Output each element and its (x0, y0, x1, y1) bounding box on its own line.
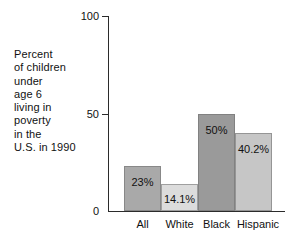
bar-value-white: 14.1% (162, 194, 197, 205)
poverty-bar-chart-figure: Percent of children under age 6 living i… (0, 0, 305, 249)
bar-slot-hispanic: 40.2% (235, 16, 272, 211)
chart-caption: Percent of children under age 6 living i… (14, 48, 102, 154)
bar-value-all: 23% (125, 177, 160, 188)
plot-area: 100 50 0 23% 14.1% 50% (108, 16, 285, 212)
y-tick-mark-50 (102, 114, 108, 115)
bar-hispanic[interactable]: 40.2% (235, 133, 272, 211)
cat-label-all: All (124, 218, 161, 231)
bar-value-black: 50% (199, 125, 234, 136)
bar-slot-all: 23% (124, 16, 161, 211)
bar-all[interactable]: 23% (124, 166, 161, 211)
y-tick-label-100: 100 (81, 11, 99, 22)
bar-slot-black: 50% (198, 16, 235, 211)
bar-slot-white: 14.1% (161, 16, 198, 211)
cat-label-black: Black (198, 218, 235, 231)
y-tick-mark-100 (102, 16, 108, 17)
category-label-row: All White Black Hispanic (108, 218, 293, 234)
cat-label-hispanic: Hispanic (233, 218, 283, 231)
bar-white[interactable]: 14.1% (161, 184, 198, 212)
y-tick-label-50: 50 (87, 108, 99, 119)
bar-black[interactable]: 50% (198, 114, 235, 212)
cat-label-white: White (161, 218, 198, 231)
x-axis-line (108, 211, 285, 212)
bar-value-hispanic: 40.2% (236, 144, 271, 155)
y-tick-label-0: 0 (93, 206, 99, 217)
bar-group: 23% 14.1% 50% 40.2% (124, 16, 273, 211)
y-axis-line (108, 16, 109, 212)
